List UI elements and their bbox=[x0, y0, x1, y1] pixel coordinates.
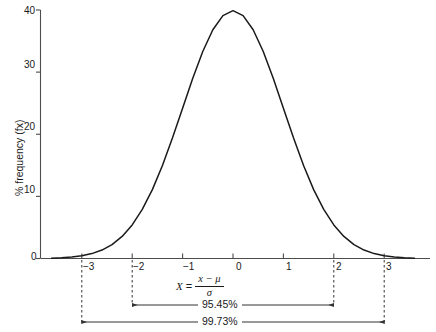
x-tick-label-minus2: −2 bbox=[133, 262, 144, 272]
x-axis-ticks bbox=[82, 254, 384, 259]
y-tick-label-30: 30 bbox=[24, 60, 35, 70]
y-axis-ticks bbox=[36, 10, 41, 259]
formula-denominator: σ bbox=[195, 288, 223, 299]
y-tick-label-40: 40 bbox=[24, 6, 35, 16]
x-tick-label-0: 0 bbox=[236, 262, 242, 272]
annotation-label-9973: 99.73% bbox=[198, 316, 242, 327]
normal-curve bbox=[52, 11, 415, 258]
normal-distribution-figure: % frequency (fx) 40 30 20 10 0 −3 −2 −1 … bbox=[0, 0, 436, 332]
y-tick-label-0: 0 bbox=[31, 252, 37, 262]
x-tick-label-2: 2 bbox=[336, 262, 342, 272]
formula-fraction: x − μσ bbox=[195, 274, 223, 298]
x-axis-formula: X =x − μσ bbox=[176, 275, 224, 299]
y-tick-label-10: 10 bbox=[24, 185, 35, 195]
formula-equals: = bbox=[186, 280, 192, 292]
formula-numerator: x − μ bbox=[195, 274, 223, 285]
x-tick-label-minus1: −1 bbox=[183, 262, 194, 272]
annotation-label-9545: 95.45% bbox=[198, 299, 242, 310]
x-tick-label-1: 1 bbox=[286, 262, 292, 272]
y-axis-label: % frequency (fx) bbox=[14, 120, 25, 196]
x-tick-label-3: 3 bbox=[386, 262, 392, 272]
x-tick-label-minus3: −3 bbox=[83, 262, 94, 272]
y-tick-label-20: 20 bbox=[24, 122, 35, 132]
formula-lhs: X bbox=[176, 280, 183, 292]
